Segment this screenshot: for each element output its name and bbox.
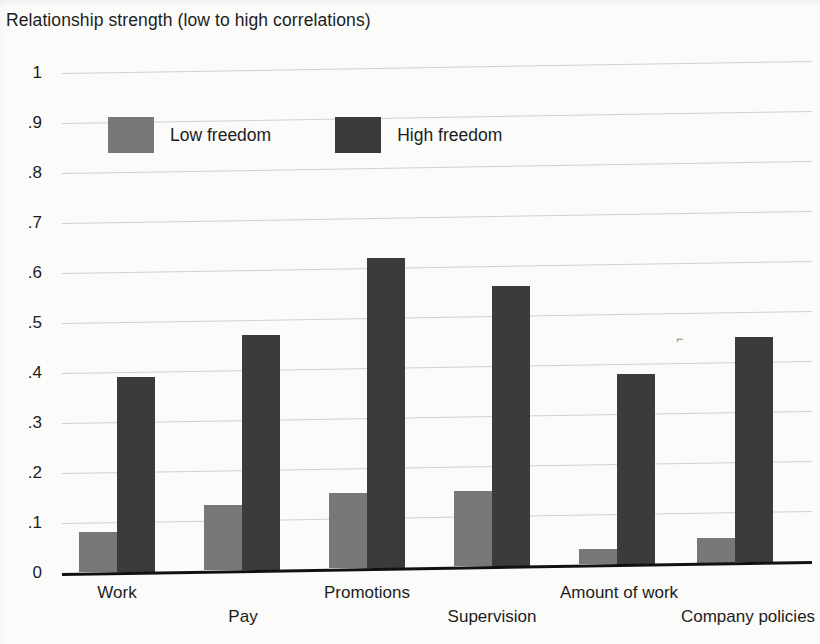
x-axis-label-supervision: Supervision (448, 607, 537, 627)
chart-legend: Low freedom High freedom (108, 117, 502, 153)
bar-amount-of-work-low-freedom (579, 549, 617, 564)
bar-promotions-high-freedom (367, 258, 405, 568)
y-axis-tick-label: .7 (8, 213, 42, 233)
legend-label-low-freedom: Low freedom (170, 125, 271, 146)
x-axis-label-pay: Pay (228, 607, 257, 627)
legend-entry-low-freedom: Low freedom (108, 117, 271, 153)
bar-work-low-freedom (79, 532, 117, 572)
bar-company-policies-low-freedom (697, 538, 735, 563)
bar-work-high-freedom (117, 377, 155, 572)
gridline (62, 411, 812, 424)
y-axis-tick-label: .9 (8, 113, 42, 133)
legend-swatch-low-freedom-icon (108, 117, 154, 153)
gridline (62, 211, 812, 224)
bar-pay-high-freedom (242, 335, 280, 570)
x-axis-label-amount-of-work: Amount of work (560, 583, 678, 603)
gridline (62, 361, 812, 374)
bar-company-policies-high-freedom (735, 337, 773, 562)
y-axis-tick-label: .2 (8, 463, 42, 483)
bar-amount-of-work-high-freedom (617, 374, 655, 564)
bar-promotions-low-freedom (329, 493, 367, 568)
chart-plot-area: 1.9.8.7.6.5.4.3.2.10 WorkPayPromotionsSu… (0, 0, 820, 644)
x-axis-label-work: Work (97, 583, 136, 603)
x-axis-label-company-policies: Company policies (681, 607, 815, 627)
y-axis-tick-label: 0 (8, 563, 42, 583)
y-axis-tick-label: .3 (8, 413, 42, 433)
gridline (62, 61, 812, 74)
x-axis-baseline (62, 561, 812, 576)
scan-artifact-mark: ⌐ (676, 336, 692, 343)
y-axis-tick-label: .1 (8, 513, 42, 533)
y-axis-tick-label: .5 (8, 313, 42, 333)
bar-pay-low-freedom (204, 505, 242, 570)
y-axis-tick-label: .8 (8, 163, 42, 183)
legend-label-high-freedom: High freedom (397, 125, 502, 146)
bar-supervision-high-freedom (492, 286, 530, 566)
legend-swatch-high-freedom-icon (335, 117, 381, 153)
y-axis-tick-label: 1 (8, 63, 42, 83)
gridline (62, 461, 812, 474)
y-axis-tick-label: .4 (8, 363, 42, 383)
gridline (62, 261, 812, 274)
bar-supervision-low-freedom (454, 491, 492, 566)
x-axis-label-promotions: Promotions (324, 583, 410, 603)
gridline (62, 311, 812, 324)
legend-entry-high-freedom: High freedom (335, 117, 502, 153)
y-axis-tick-label: .6 (8, 263, 42, 283)
gridline (62, 511, 812, 524)
gridline (62, 161, 812, 174)
